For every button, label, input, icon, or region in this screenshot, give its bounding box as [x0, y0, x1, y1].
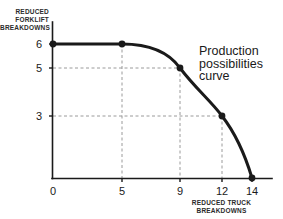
- x-tick-label-12: 12: [214, 185, 230, 197]
- point-0-6: [50, 41, 57, 48]
- guide-lines: [53, 44, 222, 178]
- curve-annotation-line1: Production: [199, 45, 263, 58]
- curve-annotation-line3: curve: [199, 70, 263, 83]
- y-axis-title-line1: REDUCED: [0, 8, 49, 16]
- x-axis-title-line1: REDUCED TRUCK: [170, 199, 273, 207]
- point-5-6: [119, 41, 126, 48]
- chart-canvas: REDUCED FORKLIFT BREAKDOWNS REDUCED TRUC…: [0, 0, 283, 219]
- x-tick-label-0: 0: [47, 185, 59, 197]
- y-tick-label-3: 3: [33, 110, 45, 122]
- curve-annotation: Production possibilities curve: [199, 45, 263, 83]
- y-axis-title-line2: FORKLIFT: [0, 16, 49, 24]
- x-axis-title-line2: BREAKDOWNS: [170, 207, 273, 215]
- point-14-0: [249, 175, 256, 182]
- x-tick-label-14: 14: [244, 185, 260, 197]
- x-tick-label-9: 9: [174, 185, 186, 197]
- y-axis-title: REDUCED FORKLIFT BREAKDOWNS: [0, 8, 49, 32]
- y-axis-title-line3: BREAKDOWNS: [0, 24, 49, 32]
- point-9-5: [177, 65, 184, 72]
- point-12-3: [219, 113, 226, 120]
- x-tick-label-5: 5: [116, 185, 128, 197]
- y-tick-label-5: 5: [33, 62, 45, 74]
- x-axis-title: REDUCED TRUCK BREAKDOWNS: [170, 199, 273, 215]
- y-tick-label-6: 6: [33, 38, 45, 50]
